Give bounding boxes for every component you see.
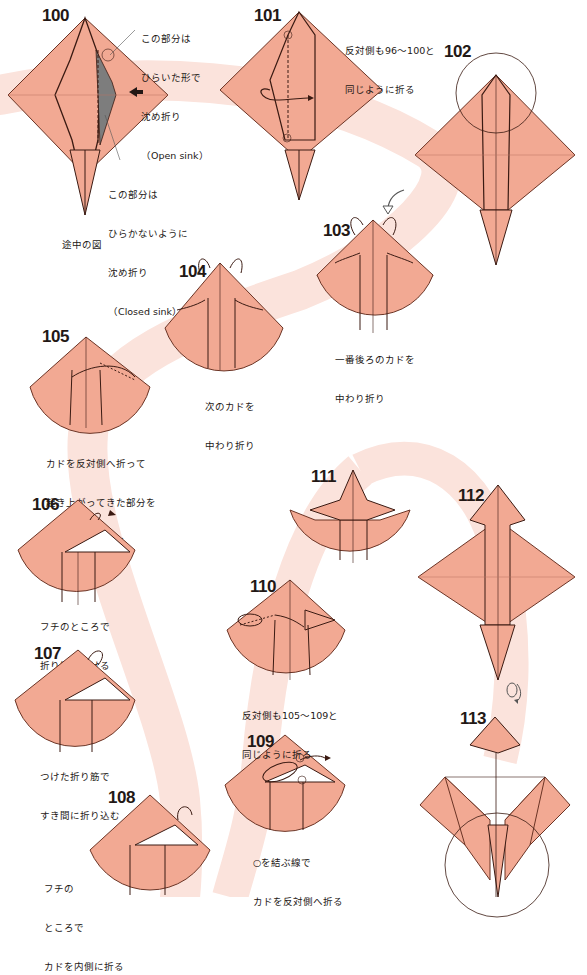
step-113: 113 <box>410 705 587 897</box>
step-number: 112 <box>458 486 484 506</box>
step-103: 103 一番後ろのカドを 中わり折り <box>315 215 445 355</box>
step-number: 102 <box>444 42 471 62</box>
caption-line: カドを反対側へ折る <box>253 895 343 908</box>
caption-line: 同じように折る <box>242 748 338 761</box>
step-101: 101 反対側も96〜100と 同じように折る <box>200 0 400 200</box>
step-number: 111 <box>311 467 336 487</box>
step-caption: 一番後ろのカドを 中わり折り <box>335 327 415 431</box>
step-110: 110 反対側も105〜109と 同じように折る <box>220 575 390 715</box>
caption-line: この部分は <box>141 32 209 45</box>
step-104: 104 次のカドを 中わり折り <box>165 258 295 398</box>
step-106: 106 フチのところで 折り筋をつける <box>10 490 150 620</box>
caption-line: 一番後ろのカドを <box>335 353 415 366</box>
step-number: 110 <box>250 577 276 597</box>
curved-arrow-icon <box>380 188 410 218</box>
caption-line: ○を結ぶ線で <box>253 856 343 869</box>
caption-line: （Open sink） <box>141 149 209 162</box>
step-111-diagram <box>285 465 415 565</box>
caption-line: フチのところで <box>40 620 110 633</box>
step-number: 101 <box>254 6 281 26</box>
step-105: 105 カドを反対側へ折って 起き上がってきた部分を つぶすように折る <box>20 325 160 475</box>
step-number: 108 <box>108 788 135 808</box>
caption-line: カドを内側に折る <box>44 960 124 973</box>
caption-line: 反対側も105〜109と <box>242 709 338 722</box>
step-112-diagram <box>410 480 587 710</box>
step-108: 108 フチの ところで カドを内側に折る <box>80 780 240 897</box>
step-number: 105 <box>42 327 69 347</box>
step-112: 112 <box>410 480 587 710</box>
caption-line: カドを反対側へ折って <box>46 457 156 470</box>
step-number: 104 <box>179 262 206 282</box>
caption-line: 沈め折り <box>141 110 209 123</box>
caption-line: フチの <box>44 882 124 895</box>
step-caption: 反対側も105〜109と 同じように折る <box>242 683 338 787</box>
step-113-diagram <box>410 705 587 897</box>
caption-line: 途中の図 <box>62 238 102 251</box>
step-caption: フチの ところで カドを内側に折る <box>44 856 124 975</box>
step-number: 113 <box>460 709 486 729</box>
step-111: 111 <box>285 465 415 565</box>
step-107: 107 つけた折り筋で すき間に折り込む <box>10 640 150 770</box>
step-number: 103 <box>323 221 350 241</box>
caption-line: 中わり折り <box>205 439 255 452</box>
step-100: 100 この部分は ひらいた形で 沈め折り （Open sink） この部分は … <box>0 0 220 230</box>
step-number: 106 <box>32 495 59 515</box>
caption-line: 中わり折り <box>335 392 415 405</box>
step-caption: ○を結ぶ線で カドを反対側へ折る <box>253 830 343 934</box>
in-progress-caption: 途中の図 <box>62 212 102 277</box>
step-number: 100 <box>42 6 69 26</box>
turn-over-icon <box>504 680 524 706</box>
step-caption: 次のカドを 中わり折り <box>205 374 255 478</box>
open-sink-caption: この部分は ひらいた形で 沈め折り （Open sink） <box>141 6 209 188</box>
caption-line: ところで <box>44 921 124 934</box>
caption-line: 次のカドを <box>205 400 255 413</box>
caption-line: ひらかないように <box>108 227 188 240</box>
caption-line: この部分は <box>108 188 188 201</box>
step-number: 107 <box>34 644 61 664</box>
caption-line: ひらいた形で <box>141 71 209 84</box>
